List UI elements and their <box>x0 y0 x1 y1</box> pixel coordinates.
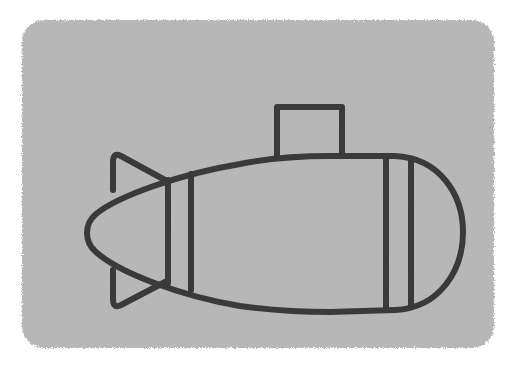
submarine-icon <box>0 0 514 368</box>
conning-tower <box>277 107 342 156</box>
illustration-stage <box>0 0 514 368</box>
hull <box>87 156 463 312</box>
